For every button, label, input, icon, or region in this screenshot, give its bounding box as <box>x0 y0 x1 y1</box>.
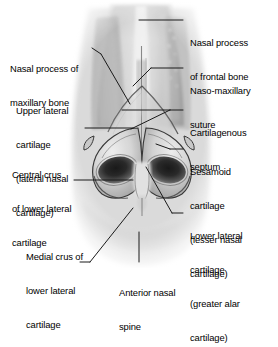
label-line: Naso-maxillary <box>190 85 251 96</box>
label-line: Cartilagenous <box>190 127 247 138</box>
label-line: Central crus <box>12 169 71 180</box>
label-line: lower lateral <box>26 285 83 296</box>
label-line: cartilage) <box>190 332 242 343</box>
label-line: Lower lateral <box>190 230 242 241</box>
label-lower-lateral-cartilage: Lower lateral cartilage (greater alar ca… <box>190 207 242 347</box>
label-medial-crus: Medial crus of lower lateral cartilage <box>26 228 83 347</box>
label-line: spine <box>119 321 175 332</box>
label-line: Anterior nasal <box>119 287 175 298</box>
label-line: of lower lateral <box>12 203 71 214</box>
label-anterior-nasal-spine: Anterior nasal spine <box>119 264 175 347</box>
label-line: cartilage <box>26 319 83 330</box>
label-line: Upper lateral <box>16 105 68 116</box>
label-line: Nasal process of <box>10 63 78 74</box>
label-line: Nasal process <box>190 37 248 48</box>
label-line: (greater alar <box>190 298 242 309</box>
label-line: Sesamoid <box>190 166 242 177</box>
label-line: Medial crus of <box>26 251 83 262</box>
label-line: cartilage <box>190 264 242 275</box>
